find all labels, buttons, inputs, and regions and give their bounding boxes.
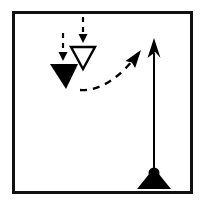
canvas-background: [0, 0, 205, 206]
figure-canvas: Force and trajectory diagram Line drawin…: [0, 0, 205, 206]
pivot-dot: [149, 168, 160, 179]
diagram-svg: Force and trajectory diagram Line drawin…: [0, 0, 205, 206]
